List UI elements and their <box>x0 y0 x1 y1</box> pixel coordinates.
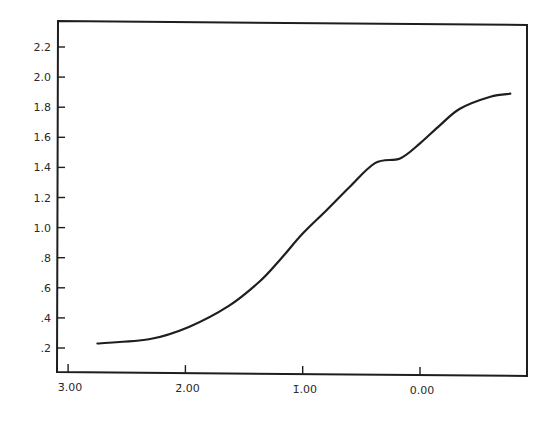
x-tick-label: 3̄.00 <box>58 381 83 394</box>
line-chart: .2.4.6.81.01.21.41.61.82.02.2 3̄.002̄.00… <box>0 0 549 439</box>
x-axis: 3̄.002̄.001̄.000.00 <box>58 364 434 397</box>
y-tick-label: .8 <box>41 252 52 265</box>
y-tick-label: .4 <box>41 312 52 325</box>
y-tick-label: 2.2 <box>34 41 52 54</box>
x-tick-label: 1̄.00 <box>292 383 317 396</box>
y-axis: .2.4.6.81.01.21.41.61.82.02.2 <box>34 41 66 355</box>
y-tick-label: 1.8 <box>34 101 52 114</box>
y-tick-label: 1.6 <box>34 131 52 144</box>
plot-frame <box>57 21 527 376</box>
y-tick-label: .2 <box>41 342 52 355</box>
x-tick-label: 0.00 <box>410 384 435 397</box>
y-tick-label: 1.2 <box>34 192 52 205</box>
x-tick-label: 2̄.00 <box>175 382 200 395</box>
y-tick-label: 2.0 <box>34 71 52 84</box>
data-line <box>97 94 510 344</box>
chart-canvas: .2.4.6.81.01.21.41.61.82.02.2 3̄.002̄.00… <box>0 0 549 439</box>
y-tick-label: 1.4 <box>34 161 52 174</box>
y-tick-label: 1.0 <box>34 222 52 235</box>
y-tick-label: .6 <box>41 282 52 295</box>
